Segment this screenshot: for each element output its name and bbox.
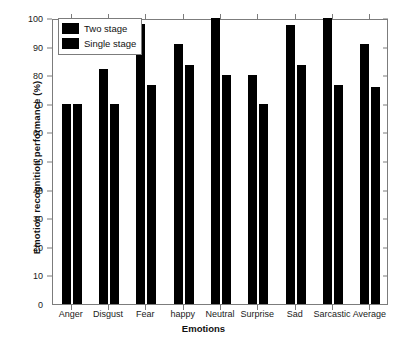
bar [334, 85, 343, 304]
x-tick-mark-top [183, 14, 184, 19]
y-tick-mark-right [383, 190, 388, 191]
bar [371, 87, 380, 304]
y-tick-mark-right [383, 276, 388, 277]
x-tick-mark-top [295, 14, 296, 19]
x-tick-label: Average [353, 309, 386, 319]
x-tick-label: Fear [136, 309, 155, 319]
plot-area [52, 19, 388, 305]
legend-swatch-icon [62, 38, 79, 49]
bar-chart-figure: 0102030405060708090100 Emotion recogniti… [0, 0, 407, 344]
y-tick-mark-right [383, 162, 388, 163]
y-tick-mark-right [383, 104, 388, 105]
x-tick-mark-top [145, 14, 146, 19]
x-tick-mark-top [369, 14, 370, 19]
bar [286, 25, 295, 304]
legend-item: Single stage [62, 36, 136, 51]
bar [147, 85, 156, 304]
bar [73, 104, 82, 304]
legend-swatch-icon [62, 23, 79, 34]
x-tick-label: Anger [59, 309, 83, 319]
x-axis-title: Emotions [0, 323, 407, 334]
y-tick-label: 0 [38, 300, 43, 310]
legend-label: Single stage [84, 38, 136, 49]
x-tick-label: happy [170, 309, 195, 319]
x-tick-mark-top [257, 14, 258, 19]
x-tick-label: Sarcastic [313, 309, 350, 319]
y-tick-mark-right [383, 76, 388, 77]
x-tick-label: Surprise [241, 309, 275, 319]
legend-label: Two stage [84, 23, 127, 34]
chart-legend: Two stageSingle stage [58, 18, 142, 55]
bar [185, 65, 194, 304]
bar [222, 75, 231, 304]
bar [248, 75, 257, 304]
bar [99, 69, 108, 304]
x-tick-mark-top [332, 14, 333, 19]
bar [136, 24, 145, 304]
x-tick-label: Neutral [205, 309, 234, 319]
bar [297, 65, 306, 304]
y-tick-label: 100 [28, 14, 43, 24]
y-axis: 0102030405060708090100 [0, 0, 52, 344]
bar [259, 104, 268, 304]
legend-item: Two stage [62, 21, 136, 36]
bar [110, 104, 119, 304]
x-tick-label: Sad [287, 309, 303, 319]
y-tick-mark-right [383, 47, 388, 48]
bar [360, 44, 369, 304]
x-tick-mark-top [220, 14, 221, 19]
y-tick-mark-right [383, 219, 388, 220]
bar [174, 44, 183, 304]
y-tick-mark-right [383, 247, 388, 248]
x-tick-label: Disgust [93, 309, 123, 319]
y-tick-mark-right [383, 19, 388, 20]
x-tick-mark-top [108, 14, 109, 19]
y-axis-title: Emotion recognition performance (%) [31, 43, 42, 293]
x-tick-mark-top [71, 14, 72, 19]
y-tick-mark-right [383, 133, 388, 134]
bar [62, 104, 71, 304]
bar [211, 18, 220, 304]
bar [323, 18, 332, 304]
